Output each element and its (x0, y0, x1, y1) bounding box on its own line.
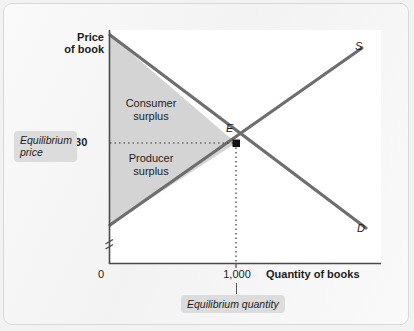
origin-label: 0 (98, 268, 104, 280)
producer-surplus-label: Producer surplus (114, 152, 188, 178)
x-tick-label-1000: 1,000 (214, 268, 260, 280)
equilibrium-price-callout: Equilibrium price (14, 131, 77, 162)
equilibrium-point-marker (233, 140, 241, 148)
equilibrium-quantity-callout: Equilibrium quantity (181, 295, 285, 313)
y-axis-title: Price of book (36, 31, 104, 56)
consumer-surplus-label: Consumer surplus (114, 97, 188, 123)
x-axis-title: Quantity of books (266, 268, 360, 280)
supply-demand-figure: Price of book Quantity of books 0 1,000 … (0, 0, 414, 331)
axis-break-icon (106, 240, 114, 250)
supply-curve-label: S (355, 40, 362, 52)
demand-curve-label: D (357, 222, 365, 234)
equilibrium-point-label: E (226, 122, 233, 134)
equilibrium-quantity-leader-line (236, 283, 237, 294)
